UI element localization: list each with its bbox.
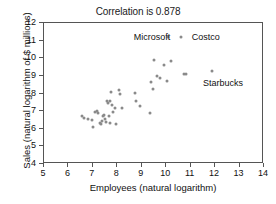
- data-point: [119, 93, 122, 96]
- data-point: [110, 90, 113, 93]
- data-point: [82, 116, 85, 119]
- y-axis-tick: [39, 93, 43, 94]
- x-axis-tick: [43, 163, 44, 167]
- scatter-plot-figure: Correlation is 0.878 MicrosoftCostcoStar…: [0, 0, 276, 204]
- data-point: [100, 122, 103, 125]
- point-annotation-microsoft: Microsoft: [134, 32, 171, 42]
- x-axis-tick: [239, 163, 240, 167]
- data-point: [159, 76, 162, 79]
- y-axis-tick: [39, 163, 43, 164]
- data-point: [108, 122, 111, 125]
- data-point: [107, 102, 110, 105]
- plot-area: MicrosoftCostcoStarbucks: [43, 22, 263, 163]
- y-axis-tick-label: 11: [27, 35, 36, 45]
- x-axis-tick: [214, 163, 215, 167]
- data-point: [180, 36, 183, 39]
- y-axis-tick-label: 7: [31, 105, 36, 115]
- data-point: [107, 115, 110, 118]
- y-axis-label: Sales (natural logarithm of $ millions): [21, 1, 32, 181]
- y-axis-tick-label: 9: [31, 70, 36, 80]
- x-axis-tick-label: 10: [160, 168, 170, 178]
- data-point: [97, 111, 100, 114]
- y-axis-tick-label: 4: [31, 158, 36, 168]
- data-point: [103, 113, 106, 116]
- data-point: [115, 122, 118, 125]
- x-axis-tick-label: 13: [234, 168, 244, 178]
- data-point: [86, 118, 89, 121]
- point-annotation-costco: Costco: [192, 32, 220, 42]
- x-axis-tick: [116, 163, 117, 167]
- x-axis-tick: [141, 163, 142, 167]
- x-axis-tick-label: 14: [258, 168, 268, 178]
- data-point: [148, 111, 151, 114]
- y-axis-tick-label: 6: [31, 123, 36, 133]
- x-axis-tick: [190, 163, 191, 167]
- y-axis-tick-label: 12: [26, 17, 36, 27]
- data-point: [165, 80, 168, 83]
- y-axis-tick: [39, 57, 43, 58]
- y-axis-tick: [39, 110, 43, 111]
- y-axis-tick-label: 8: [31, 88, 36, 98]
- x-axis-tick: [67, 163, 68, 167]
- data-point: [150, 81, 153, 84]
- data-point: [185, 73, 188, 76]
- data-point: [109, 99, 112, 102]
- data-point: [163, 63, 166, 66]
- y-axis-tick: [39, 128, 43, 129]
- data-point: [210, 69, 213, 72]
- data-point: [138, 104, 141, 107]
- point-annotation-starbucks: Starbucks: [203, 78, 243, 88]
- y-axis-tick-label: 10: [26, 52, 36, 62]
- x-axis-tick-label: 11: [185, 168, 194, 178]
- x-axis-tick-label: 7: [89, 168, 94, 178]
- data-point: [101, 119, 104, 122]
- data-point: [117, 89, 120, 92]
- data-point: [113, 106, 116, 109]
- x-axis-tick-label: 8: [114, 168, 119, 178]
- data-point: [92, 126, 95, 129]
- data-point: [91, 118, 94, 121]
- y-axis-tick: [39, 145, 43, 146]
- data-point: [153, 59, 156, 62]
- x-axis-tick: [165, 163, 166, 167]
- chart-title: Correlation is 0.878: [0, 6, 276, 17]
- x-axis-tick-label: 9: [138, 168, 143, 178]
- x-axis-tick: [92, 163, 93, 167]
- data-point: [112, 111, 115, 114]
- x-axis-tick-label: 6: [65, 168, 70, 178]
- data-point: [120, 106, 123, 109]
- x-axis-tick: [263, 163, 264, 167]
- data-point: [135, 99, 138, 102]
- x-axis-tick-label: 5: [40, 168, 45, 178]
- data-point: [152, 88, 155, 91]
- x-axis-label: Employees (natural logarithm): [43, 182, 263, 193]
- x-axis-tick-label: 12: [209, 168, 219, 178]
- y-axis-tick: [39, 75, 43, 76]
- data-point: [169, 59, 172, 62]
- y-axis-tick-label: 5: [31, 140, 36, 150]
- y-axis-tick: [39, 22, 43, 23]
- y-axis-tick: [39, 40, 43, 41]
- data-point: [133, 92, 136, 95]
